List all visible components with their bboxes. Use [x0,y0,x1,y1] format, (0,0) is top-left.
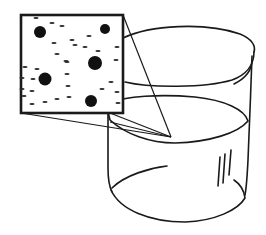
small-particle [54,98,59,100]
large-particle [39,73,52,86]
beaker-bottom-front [111,180,245,222]
small-particle [22,66,27,68]
small-particle [114,91,119,93]
small-particle [34,68,39,70]
small-particle [42,101,47,103]
small-particle [99,88,104,90]
small-particle [69,39,74,41]
small-particle [19,88,24,90]
large-particle [100,24,110,34]
small-particle [29,103,34,105]
beaker-right-wall [245,56,252,195]
small-particle [29,90,34,92]
liquid-surface [109,96,249,143]
beaker-rim-back [123,26,254,52]
large-particle [85,95,97,107]
small-particle [108,81,113,83]
small-particle [59,25,64,27]
cone-line-top [123,15,171,137]
small-particle [21,95,26,97]
small-particle [33,17,38,19]
small-particle [66,96,71,98]
beaker-left-wall [108,113,112,192]
small-particle [30,78,35,80]
small-particle [64,73,69,75]
cone-line-lower [110,122,171,137]
beaker [108,26,254,222]
large-particle [34,26,46,38]
beaker-rim-lip [234,60,252,84]
small-particle [113,59,118,61]
small-particle [54,53,59,55]
small-particle [95,50,100,52]
small-particle [72,44,77,46]
small-particle [114,46,119,48]
small-particle [64,61,69,63]
small-particle [65,85,70,87]
large-particle [88,56,102,70]
small-particle [19,77,24,79]
small-particle [86,35,91,37]
beaker-bottom-back [112,166,167,188]
small-particle [115,102,120,104]
glass-highlight-3 [229,150,231,175]
glass-highlight-1 [218,157,220,186]
small-particle [82,46,87,48]
beaker-diagram [0,0,266,235]
cone-line-bottom [21,113,171,137]
diagram-canvas [0,0,266,235]
glass-highlight-2 [223,154,225,183]
small-particle [49,22,54,24]
cone-line-mid [110,113,171,137]
small-particle [51,42,56,44]
magnified-view [19,15,123,113]
